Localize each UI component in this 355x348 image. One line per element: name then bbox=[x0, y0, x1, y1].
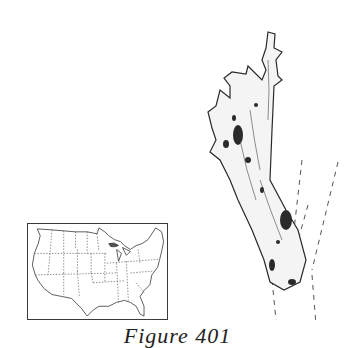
lichen-illustration bbox=[190, 20, 340, 320]
us-range-map bbox=[27, 223, 168, 320]
us-map-icon bbox=[28, 224, 167, 319]
figure-caption: Figure 401 bbox=[0, 325, 355, 347]
